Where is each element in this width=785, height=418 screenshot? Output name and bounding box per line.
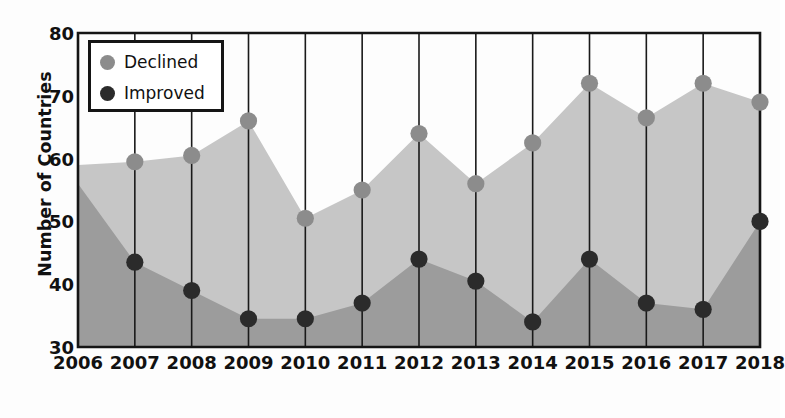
legend-label-declined: Declined [124, 54, 198, 71]
x-tick-2013: 2013 [451, 352, 501, 373]
x-tick-2012: 2012 [394, 352, 444, 373]
x-tick-2006: 2006 [53, 352, 103, 373]
legend-label-improved: Improved [124, 85, 205, 102]
x-tick-2014: 2014 [508, 352, 558, 373]
legend-item-declined: Declined [91, 47, 221, 78]
x-tick-2007: 2007 [110, 352, 160, 373]
data-point-declined-2017 [695, 75, 712, 92]
legend-swatch-improved-icon [100, 86, 115, 101]
data-point-improved-2013 [467, 272, 484, 289]
data-point-declined-2008 [183, 147, 200, 164]
x-tick-2008: 2008 [167, 352, 217, 373]
data-point-declined-2010 [297, 210, 314, 227]
x-axis-tick-labels: 2006200720082009201020112012201320142015… [0, 352, 780, 392]
data-point-declined-2009 [240, 112, 257, 129]
data-point-declined-2007 [126, 153, 143, 170]
data-point-improved-2012 [410, 250, 427, 267]
x-tick-2018: 2018 [735, 352, 785, 373]
data-point-declined-2018 [751, 93, 768, 110]
data-point-declined-2016 [638, 109, 655, 126]
data-point-improved-2010 [297, 310, 314, 327]
legend-item-improved: Improved [91, 78, 221, 109]
data-point-improved-2015 [581, 250, 598, 267]
x-tick-2017: 2017 [678, 352, 728, 373]
data-point-improved-2016 [638, 294, 655, 311]
x-tick-2009: 2009 [223, 352, 273, 373]
data-point-declined-2011 [354, 181, 371, 198]
data-point-declined-2012 [410, 125, 427, 142]
data-point-improved-2017 [695, 301, 712, 318]
data-point-improved-2011 [354, 294, 371, 311]
x-tick-2015: 2015 [564, 352, 614, 373]
legend-swatch-declined-icon [100, 55, 115, 70]
data-point-improved-2018 [751, 213, 768, 230]
x-tick-2010: 2010 [280, 352, 330, 373]
data-point-declined-2015 [581, 75, 598, 92]
x-tick-2016: 2016 [621, 352, 671, 373]
data-point-improved-2009 [240, 310, 257, 327]
data-point-improved-2014 [524, 313, 541, 330]
data-point-declined-2013 [467, 175, 484, 192]
x-tick-2011: 2011 [337, 352, 387, 373]
data-point-improved-2007 [126, 254, 143, 271]
legend: Declined Improved [88, 40, 224, 112]
data-point-declined-2014 [524, 134, 541, 151]
data-point-improved-2008 [183, 282, 200, 299]
